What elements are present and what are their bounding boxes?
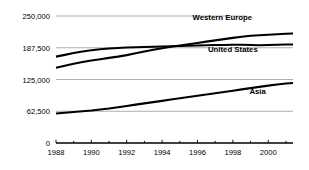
- series-label: Western Europe: [192, 13, 252, 22]
- y-axis-labels: 250,000187,500125,00062,5000: [23, 12, 50, 148]
- x-axis-tick-label: 1990: [83, 148, 100, 157]
- y-axis-tick-label: 125,000: [23, 76, 50, 85]
- x-axis-tick-label: 1996: [189, 148, 206, 157]
- y-axis-tick-label: 250,000: [23, 12, 50, 21]
- x-axis-tick-label: 1994: [154, 148, 171, 157]
- line-chart: 250,000187,500125,00062,5000 19881990199…: [0, 0, 309, 170]
- series-label: Asia: [249, 87, 266, 96]
- x-axis-tick-label: 1992: [118, 148, 135, 157]
- series-label: United States: [208, 45, 258, 54]
- x-axis-tick-label: 1998: [224, 148, 241, 157]
- y-axis-tick-label: 62,500: [27, 107, 50, 116]
- y-axis-tick-label: 187,500: [23, 44, 50, 53]
- x-axis-labels: 1988199019921994199619982000: [48, 148, 277, 157]
- gridlines: [56, 16, 293, 111]
- x-axis-tick-label: 1988: [48, 148, 65, 157]
- y-axis-tick-label: 0: [46, 139, 50, 148]
- series-labels: Western EuropeUnited StatesAsia: [192, 13, 266, 97]
- x-axis: [56, 140, 293, 143]
- chart-canvas: 250,000187,500125,00062,5000 19881990199…: [0, 0, 309, 170]
- x-axis-tick-label: 2000: [260, 148, 277, 157]
